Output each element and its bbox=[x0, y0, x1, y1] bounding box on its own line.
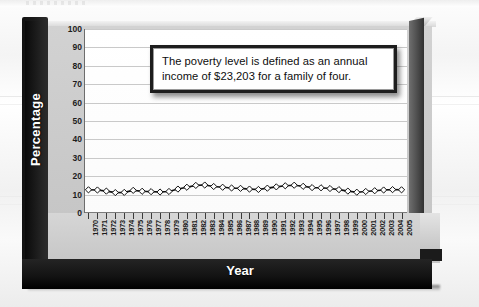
x-tick-label: 1980 bbox=[181, 220, 190, 236]
y-tick-label: 40 bbox=[52, 134, 82, 144]
data-point-marker bbox=[130, 187, 136, 193]
x-tick-label: 1990 bbox=[270, 220, 279, 236]
x-tick-label: 1976 bbox=[145, 220, 154, 236]
x-tick bbox=[357, 213, 358, 219]
x-tick-label: 1983 bbox=[208, 220, 217, 236]
x-tick bbox=[294, 213, 295, 219]
x-tick-label: 1994 bbox=[306, 220, 315, 236]
x-tick bbox=[214, 213, 215, 219]
x-tick-label: 1999 bbox=[351, 220, 360, 236]
x-tick-label: 1996 bbox=[324, 220, 333, 236]
x-tick bbox=[196, 213, 197, 219]
x-tick-label: 1993 bbox=[297, 220, 306, 236]
data-point-marker bbox=[255, 186, 261, 192]
data-point-marker bbox=[202, 182, 208, 188]
data-point-marker bbox=[336, 187, 342, 193]
x-tick bbox=[187, 213, 188, 219]
x-tick bbox=[88, 213, 89, 219]
y-axis-ticks: 100 90 80 70 60 50 40 30 20 10 0 bbox=[48, 29, 82, 213]
x-tick-label: 1974 bbox=[127, 220, 136, 236]
data-point-marker bbox=[157, 189, 163, 195]
data-point-marker bbox=[363, 188, 369, 194]
y-tick-label: 30 bbox=[52, 153, 82, 163]
y-tick-label: 90 bbox=[52, 42, 82, 52]
x-tick bbox=[124, 213, 125, 219]
x-tick-label: 1985 bbox=[226, 220, 235, 236]
x-tick bbox=[384, 213, 385, 219]
x-tick-label: 1979 bbox=[172, 220, 181, 236]
x-tick bbox=[133, 213, 134, 219]
data-point-marker bbox=[228, 185, 234, 191]
x-tick bbox=[339, 213, 340, 219]
callout-inner: The poverty level is defined as an annua… bbox=[153, 48, 394, 90]
data-point-marker bbox=[112, 189, 118, 195]
y-tick-label: 60 bbox=[52, 98, 82, 108]
x-tick bbox=[223, 213, 224, 219]
data-point-marker bbox=[398, 187, 404, 193]
x-tick bbox=[151, 213, 152, 219]
x-tick bbox=[169, 213, 170, 219]
x-tick bbox=[312, 213, 313, 219]
data-point-marker bbox=[85, 187, 91, 193]
x-tick-label: 2005 bbox=[405, 220, 414, 236]
data-point-marker bbox=[345, 188, 351, 194]
x-tick-label: 1978 bbox=[163, 220, 172, 236]
data-point-marker bbox=[175, 186, 181, 192]
y-tick-label: 50 bbox=[52, 116, 82, 126]
data-point-marker bbox=[291, 182, 297, 188]
x-tick bbox=[321, 213, 322, 219]
x-tick bbox=[106, 213, 107, 219]
x-tick bbox=[276, 213, 277, 219]
data-point-marker bbox=[389, 187, 395, 193]
x-tick bbox=[366, 213, 367, 219]
x-tick-label: 2004 bbox=[396, 220, 405, 236]
y-tick-label: 80 bbox=[52, 61, 82, 71]
x-tick-label: 2000 bbox=[360, 220, 369, 236]
x-tick bbox=[303, 213, 304, 219]
data-point-marker bbox=[273, 184, 279, 190]
y-tick-label: 100 bbox=[52, 24, 82, 34]
data-point-marker bbox=[237, 185, 243, 191]
x-tick-label: 2002 bbox=[378, 220, 387, 236]
x-tick-label: 1984 bbox=[217, 220, 226, 236]
x-tick-label: 1975 bbox=[136, 220, 145, 236]
scan-artifact bbox=[26, 1, 88, 5]
x-tick-label: 1981 bbox=[190, 220, 199, 236]
y-axis-title: Percentage bbox=[28, 75, 43, 185]
y-tick-label: 70 bbox=[52, 79, 82, 89]
x-tick bbox=[285, 213, 286, 219]
x-tick-label: 1997 bbox=[333, 220, 342, 236]
data-point-marker bbox=[318, 185, 324, 191]
chart-frame: 100 90 80 70 60 50 40 30 20 10 0 1970197… bbox=[22, 17, 460, 291]
y-tick-label: 20 bbox=[52, 171, 82, 181]
x-tick bbox=[178, 213, 179, 219]
x-tick bbox=[258, 213, 259, 219]
data-point-marker bbox=[94, 187, 100, 193]
x-tick-label: 2001 bbox=[369, 220, 378, 236]
data-point-marker bbox=[309, 185, 315, 191]
data-point-marker bbox=[166, 188, 172, 194]
x-tick bbox=[241, 213, 242, 219]
data-point-marker bbox=[354, 189, 360, 195]
x-tick bbox=[205, 213, 206, 219]
data-point-marker bbox=[148, 189, 154, 195]
x-tick bbox=[249, 213, 250, 219]
x-tick bbox=[115, 213, 116, 219]
data-point-marker bbox=[264, 185, 270, 191]
x-tick-label: 1972 bbox=[109, 220, 118, 236]
y-tick-label: 0 bbox=[52, 208, 82, 218]
data-point-marker bbox=[372, 188, 378, 194]
x-axis-labels: 1970197119721973197419751976197719781979… bbox=[84, 220, 406, 260]
x-tick-label: 1986 bbox=[235, 220, 244, 236]
x-axis-title: Year bbox=[48, 263, 432, 278]
data-point-marker bbox=[103, 188, 109, 194]
x-tick bbox=[330, 213, 331, 219]
data-point-marker bbox=[211, 183, 217, 189]
x-tick-label: 1992 bbox=[288, 220, 297, 236]
data-point-marker bbox=[139, 188, 145, 194]
x-tick-label: 1973 bbox=[118, 220, 127, 236]
x-tick-label: 1995 bbox=[315, 220, 324, 236]
data-point-marker bbox=[246, 186, 252, 192]
x-tick bbox=[267, 213, 268, 219]
x-tick bbox=[402, 213, 403, 219]
